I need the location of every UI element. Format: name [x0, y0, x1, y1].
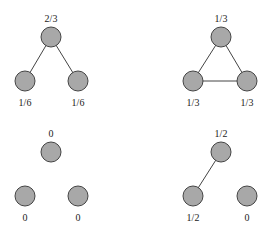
node-bottom-right: [68, 71, 88, 91]
path-graph: 2/3 1/6 1/6: [15, 13, 88, 108]
node-label: 2/3: [45, 13, 58, 24]
diagram-canvas: 2/3 1/6 1/6 1/3 1/3 1/3 0 0 0 1/2 1/2 0: [0, 0, 270, 227]
node-label: 1/2: [187, 212, 200, 223]
node-bottom-left: [15, 71, 35, 91]
node-bottom-left: [183, 186, 203, 206]
node-label: 0: [23, 212, 28, 223]
node-bottom-left: [183, 71, 203, 91]
single-edge-graph: 1/2 1/2 0: [183, 128, 257, 223]
node-label: 1/2: [215, 128, 228, 139]
node-label: 0: [245, 212, 250, 223]
node-label: 1/6: [19, 97, 32, 108]
node-bottom-right: [68, 186, 88, 206]
node-top: [211, 142, 231, 162]
node-bottom-left: [15, 186, 35, 206]
node-top: [41, 27, 61, 47]
triangle-graph: 1/3 1/3 1/3: [183, 13, 257, 108]
node-bottom-right: [237, 186, 257, 206]
node-label: 1/3: [215, 13, 228, 24]
node-label: 0: [49, 128, 54, 139]
node-top: [41, 142, 61, 162]
node-bottom-right: [237, 71, 257, 91]
node-top: [211, 27, 231, 47]
node-label: 1/3: [241, 97, 254, 108]
empty-graph: 0 0 0: [15, 128, 88, 223]
node-label: 1/6: [72, 97, 85, 108]
node-label: 1/3: [187, 97, 200, 108]
node-label: 0: [76, 212, 81, 223]
